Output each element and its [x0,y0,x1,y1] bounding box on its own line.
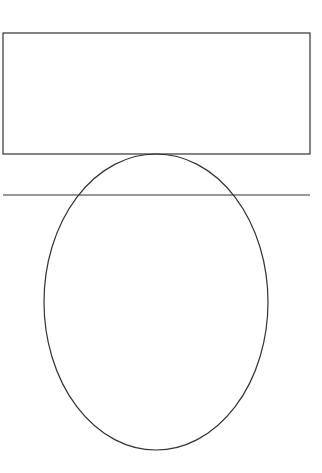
diagram-canvas [0,0,322,473]
canvas-background [0,0,322,473]
